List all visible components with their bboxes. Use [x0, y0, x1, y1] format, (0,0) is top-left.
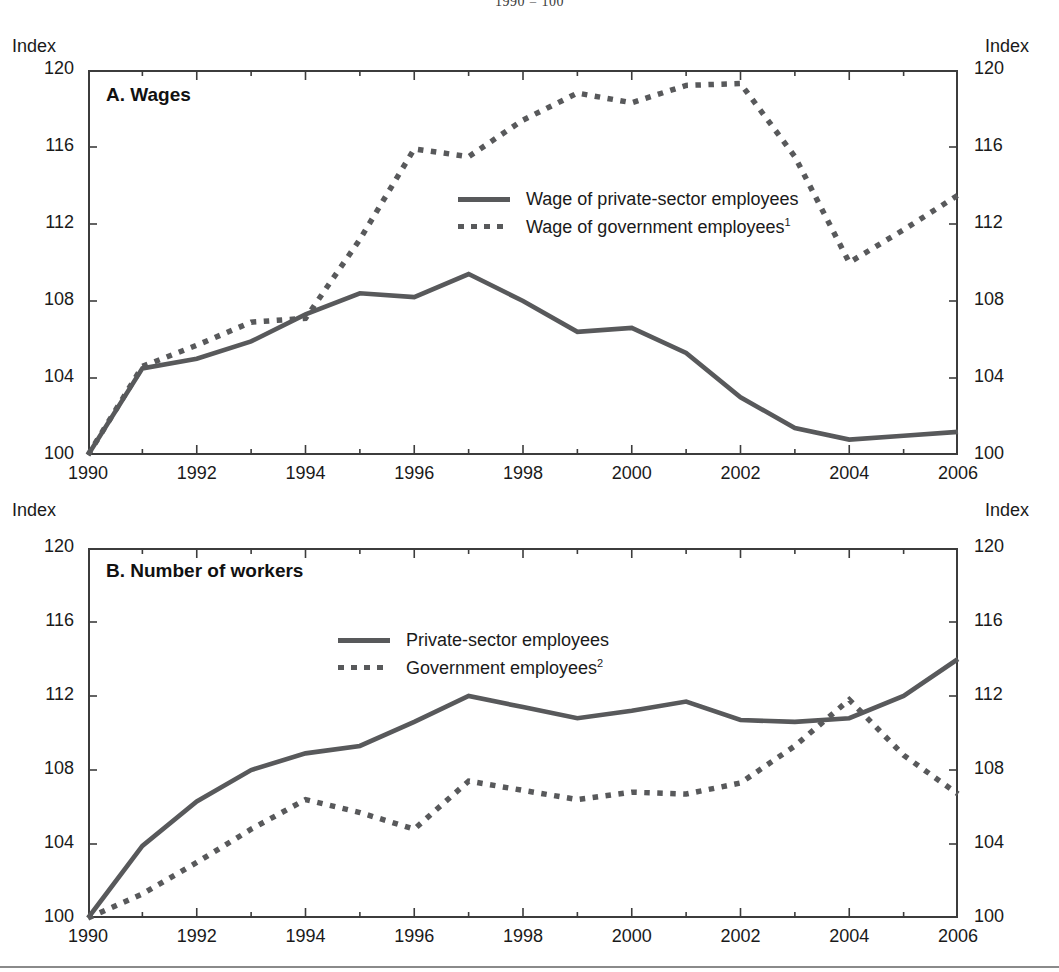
x-tick-label: 1992	[157, 926, 237, 947]
x-tick-label: 1996	[374, 926, 454, 947]
x-tick-label: 2004	[809, 926, 889, 947]
legend-swatch-dotted-icon	[338, 661, 390, 675]
y-tick-label-right: 104	[974, 832, 1038, 853]
x-tick-label: 2000	[592, 926, 672, 947]
legend-footnote-marker: 2	[597, 657, 603, 669]
y-tick-label: 120	[10, 536, 74, 557]
y-tick-label-right: 100	[974, 906, 1038, 927]
bottom-divider	[0, 966, 1059, 968]
y-tick-label-right: 120	[974, 536, 1038, 557]
series-line	[88, 700, 958, 918]
figure-root: 1990 = 100 Index Index A. Wages 10010010…	[0, 0, 1059, 972]
series-line	[88, 659, 958, 918]
x-tick-label: 1990	[48, 926, 128, 947]
x-tick-label: 1994	[266, 926, 346, 947]
y-tick-label: 116	[10, 610, 74, 631]
y-tick-label: 100	[10, 906, 74, 927]
x-tick-label: 1998	[483, 926, 563, 947]
x-tick-label: 2006	[918, 926, 998, 947]
panel-b-legend: Private-sector employees Government empl…	[338, 627, 609, 681]
legend-item: Government employees2	[338, 654, 609, 681]
panel-b-series-layer	[0, 0, 1059, 972]
legend-label: Government employees2	[406, 657, 603, 679]
y-tick-label: 104	[10, 832, 74, 853]
y-tick-label-right: 112	[974, 684, 1038, 705]
y-tick-label: 112	[10, 684, 74, 705]
y-tick-label-right: 108	[974, 758, 1038, 779]
legend-label: Private-sector employees	[406, 630, 609, 651]
y-tick-label: 108	[10, 758, 74, 779]
legend-swatch-solid-icon	[338, 634, 390, 648]
x-tick-label: 2002	[701, 926, 781, 947]
y-tick-label-right: 116	[974, 610, 1038, 631]
legend-item: Private-sector employees	[338, 627, 609, 654]
